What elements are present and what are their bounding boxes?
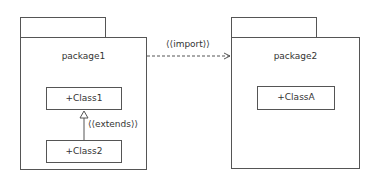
connectors xyxy=(0,0,378,181)
hollow-triangle-icon xyxy=(80,111,88,118)
extends-stereotype-label: ⟨⟨extends⟩⟩ xyxy=(88,119,138,129)
import-stereotype-label: ⟨⟨import⟩⟩ xyxy=(160,39,216,49)
